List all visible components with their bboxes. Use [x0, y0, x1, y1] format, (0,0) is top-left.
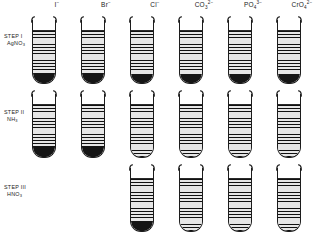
tube-liquid-surface — [33, 104, 55, 105]
step-label-step-3: STEP IIIHNO3 — [4, 184, 44, 198]
tube-glass-body — [228, 94, 252, 158]
tube-glass-body — [179, 20, 203, 84]
tube-glass-body — [277, 20, 301, 84]
tube-glass-body — [228, 168, 252, 232]
tube-liquid-hatch — [180, 179, 202, 231]
column-header-formula: Cl — [150, 1, 157, 8]
column-header-formula: CO — [195, 1, 205, 8]
tube-liquid-surface — [278, 30, 300, 31]
tube-glass-body — [81, 20, 105, 84]
tube-glass-body — [179, 168, 203, 232]
column-header-charge: 3− — [256, 0, 262, 5]
step-reagent: HNO3 — [4, 191, 44, 198]
tube-liquid-surface — [180, 104, 202, 105]
step-reagent-formula: AgNO — [7, 40, 23, 46]
column-header-charge: 2− — [208, 0, 214, 5]
test-tube-step-1-chromate — [276, 16, 302, 84]
test-tube-step-2-carbonate — [178, 90, 204, 158]
tube-glass-body — [130, 94, 154, 158]
step-reagent-subscript: 3 — [23, 42, 25, 47]
test-tube-step-2-bromide — [80, 90, 106, 158]
column-header-charge: − — [108, 0, 111, 5]
column-header-charge: − — [157, 0, 160, 5]
column-header-chromate: CrO42− — [278, 1, 318, 10]
tube-glass-body — [32, 94, 56, 158]
column-header-bromide: Br− — [82, 1, 130, 10]
anion-analysis-diagram: I−Br−Cl−CO32−PO43−CrO42−STEP IAgNO3STEP … — [0, 0, 318, 234]
tube-liquid-surface — [278, 178, 300, 179]
column-header-phosphate: PO43− — [229, 1, 277, 10]
column-header-formula: CrO — [292, 1, 305, 8]
test-tube-step-1-phosphate — [227, 16, 253, 84]
tube-glass-body — [32, 20, 56, 84]
test-tube-step-2-chloride — [129, 90, 155, 158]
tube-liquid-surface — [33, 30, 55, 31]
tube-liquid-surface — [131, 104, 153, 105]
tube-liquid-surface — [82, 30, 104, 31]
tube-glass-body — [277, 94, 301, 158]
tube-liquid-surface — [131, 178, 153, 179]
step-reagent-formula: HNO — [7, 191, 20, 197]
tube-glass-body — [179, 94, 203, 158]
tube-liquid-surface — [82, 104, 104, 105]
tube-glass-body — [81, 94, 105, 158]
tube-liquid-hatch — [229, 105, 251, 157]
test-tube-step-3-phosphate — [227, 164, 253, 232]
tube-glass-body — [277, 168, 301, 232]
tube-liquid-hatch — [180, 105, 202, 157]
tube-glass-body — [130, 20, 154, 84]
test-tube-step-1-bromide — [80, 16, 106, 84]
column-header-carbonate: CO32− — [180, 1, 228, 10]
column-header-subscript: 4 — [304, 5, 307, 10]
column-header-formula: PO — [244, 1, 254, 8]
column-header-charge: 2− — [307, 0, 313, 5]
test-tube-step-1-iodide — [31, 16, 57, 84]
tube-liquid-surface — [180, 30, 202, 31]
step-reagent-subscript: 3 — [15, 118, 17, 123]
tube-glass-body — [130, 168, 154, 232]
tube-liquid-surface — [278, 104, 300, 105]
tube-liquid-surface — [229, 30, 251, 31]
test-tube-step-1-carbonate — [178, 16, 204, 84]
column-header-subscript: 4 — [254, 5, 257, 10]
column-header-subscript: 3 — [205, 5, 208, 10]
test-tube-step-3-carbonate — [178, 164, 204, 232]
tube-liquid-hatch — [278, 179, 300, 231]
column-header-chloride: Cl− — [131, 1, 179, 10]
tube-liquid-hatch — [131, 105, 153, 157]
test-tube-step-2-iodide — [31, 90, 57, 158]
tube-liquid-surface — [229, 178, 251, 179]
tube-liquid-surface — [180, 178, 202, 179]
tube-liquid-surface — [131, 30, 153, 31]
test-tube-step-3-chromate — [276, 164, 302, 232]
column-header-formula: Br — [101, 1, 108, 8]
tube-liquid-hatch — [229, 179, 251, 231]
test-tube-step-1-chloride — [129, 16, 155, 84]
column-header-iodide: I− — [33, 1, 81, 10]
column-header-charge: − — [57, 0, 60, 5]
test-tube-step-2-chromate — [276, 90, 302, 158]
test-tube-step-3-chloride — [129, 164, 155, 232]
tube-liquid-hatch — [278, 105, 300, 157]
step-name: STEP III — [4, 184, 44, 191]
step-reagent-subscript: 3 — [20, 193, 22, 198]
tube-liquid-surface — [229, 104, 251, 105]
test-tube-step-2-phosphate — [227, 90, 253, 158]
tube-glass-body — [228, 20, 252, 84]
